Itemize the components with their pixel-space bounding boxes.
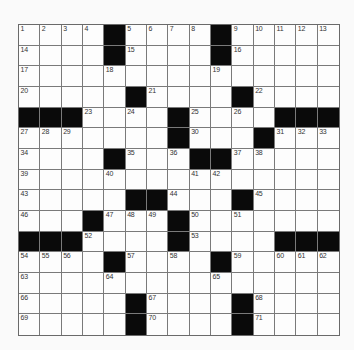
- grid-cell[interactable]: [296, 211, 317, 232]
- grid-cell[interactable]: [62, 211, 83, 232]
- grid-cell[interactable]: [40, 87, 61, 108]
- grid-cell[interactable]: 42: [211, 170, 232, 191]
- grid-cell[interactable]: [318, 149, 339, 170]
- grid-cell[interactable]: [147, 170, 168, 191]
- grid-cell[interactable]: [147, 149, 168, 170]
- grid-cell[interactable]: 19: [211, 66, 232, 87]
- grid-cell[interactable]: [40, 190, 61, 211]
- grid-cell[interactable]: 67: [147, 294, 168, 315]
- grid-cell[interactable]: [254, 232, 275, 253]
- grid-cell[interactable]: 69: [19, 314, 40, 335]
- grid-cell[interactable]: [211, 211, 232, 232]
- grid-cell[interactable]: [126, 128, 147, 149]
- grid-cell[interactable]: 22: [254, 87, 275, 108]
- grid-cell[interactable]: [62, 46, 83, 67]
- grid-cell[interactable]: 48: [126, 211, 147, 232]
- grid-cell[interactable]: [147, 128, 168, 149]
- grid-cell[interactable]: [40, 273, 61, 294]
- grid-cell[interactable]: [190, 294, 211, 315]
- grid-cell[interactable]: 47: [104, 211, 125, 232]
- grid-cell[interactable]: [254, 170, 275, 191]
- grid-cell[interactable]: [83, 170, 104, 191]
- grid-cell[interactable]: [168, 170, 189, 191]
- grid-cell[interactable]: [62, 66, 83, 87]
- grid-cell[interactable]: 59: [232, 252, 253, 273]
- grid-cell[interactable]: [275, 149, 296, 170]
- grid-cell[interactable]: 1: [19, 25, 40, 46]
- grid-cell[interactable]: 36: [168, 149, 189, 170]
- grid-cell[interactable]: [254, 108, 275, 129]
- grid-cell[interactable]: [296, 190, 317, 211]
- grid-cell[interactable]: [40, 294, 61, 315]
- grid-cell[interactable]: 11: [275, 25, 296, 46]
- grid-cell[interactable]: [296, 314, 317, 335]
- grid-cell[interactable]: [83, 190, 104, 211]
- grid-cell[interactable]: [275, 87, 296, 108]
- grid-cell[interactable]: 61: [296, 252, 317, 273]
- grid-cell[interactable]: [83, 314, 104, 335]
- grid-cell[interactable]: 71: [254, 314, 275, 335]
- grid-cell[interactable]: [275, 294, 296, 315]
- grid-cell[interactable]: [232, 273, 253, 294]
- grid-cell[interactable]: 35: [126, 149, 147, 170]
- grid-cell[interactable]: [126, 232, 147, 253]
- grid-cell[interactable]: [211, 108, 232, 129]
- grid-cell[interactable]: 16: [232, 46, 253, 67]
- grid-cell[interactable]: 4: [83, 25, 104, 46]
- grid-cell[interactable]: [168, 314, 189, 335]
- grid-cell[interactable]: [254, 46, 275, 67]
- grid-cell[interactable]: 66: [19, 294, 40, 315]
- grid-cell[interactable]: 21: [147, 87, 168, 108]
- grid-cell[interactable]: 33: [318, 128, 339, 149]
- grid-cell[interactable]: 43: [19, 190, 40, 211]
- grid-cell[interactable]: 44: [168, 190, 189, 211]
- grid-cell[interactable]: 58: [168, 252, 189, 273]
- grid-cell[interactable]: [62, 190, 83, 211]
- grid-cell[interactable]: [211, 190, 232, 211]
- grid-cell[interactable]: [104, 314, 125, 335]
- grid-cell[interactable]: 46: [19, 211, 40, 232]
- grid-cell[interactable]: [296, 87, 317, 108]
- grid-cell[interactable]: [147, 232, 168, 253]
- grid-cell[interactable]: [168, 273, 189, 294]
- grid-cell[interactable]: [190, 46, 211, 67]
- grid-cell[interactable]: [62, 149, 83, 170]
- grid-cell[interactable]: [318, 211, 339, 232]
- grid-cell[interactable]: 13: [318, 25, 339, 46]
- grid-cell[interactable]: [40, 46, 61, 67]
- grid-cell[interactable]: 24: [126, 108, 147, 129]
- grid-cell[interactable]: [232, 232, 253, 253]
- grid-cell[interactable]: [40, 314, 61, 335]
- grid-cell[interactable]: 18: [104, 66, 125, 87]
- grid-cell[interactable]: [147, 66, 168, 87]
- grid-cell[interactable]: 25: [190, 108, 211, 129]
- grid-cell[interactable]: 68: [254, 294, 275, 315]
- grid-cell[interactable]: [147, 46, 168, 67]
- grid-cell[interactable]: [83, 252, 104, 273]
- grid-cell[interactable]: 50: [190, 211, 211, 232]
- grid-cell[interactable]: [126, 66, 147, 87]
- grid-cell[interactable]: [168, 46, 189, 67]
- grid-cell[interactable]: [126, 273, 147, 294]
- grid-cell[interactable]: [40, 170, 61, 191]
- grid-cell[interactable]: [62, 294, 83, 315]
- grid-cell[interactable]: 60: [275, 252, 296, 273]
- grid-cell[interactable]: [275, 211, 296, 232]
- grid-cell[interactable]: [83, 149, 104, 170]
- grid-cell[interactable]: 17: [19, 66, 40, 87]
- grid-cell[interactable]: [211, 128, 232, 149]
- grid-cell[interactable]: [254, 211, 275, 232]
- grid-cell[interactable]: [62, 314, 83, 335]
- grid-cell[interactable]: [318, 190, 339, 211]
- grid-cell[interactable]: 28: [40, 128, 61, 149]
- grid-cell[interactable]: 29: [62, 128, 83, 149]
- grid-cell[interactable]: [190, 87, 211, 108]
- grid-cell[interactable]: [211, 87, 232, 108]
- grid-cell[interactable]: [147, 273, 168, 294]
- grid-cell[interactable]: [296, 66, 317, 87]
- grid-cell[interactable]: [318, 294, 339, 315]
- grid-cell[interactable]: 2: [40, 25, 61, 46]
- grid-cell[interactable]: 49: [147, 211, 168, 232]
- grid-cell[interactable]: [104, 87, 125, 108]
- grid-cell[interactable]: 63: [19, 273, 40, 294]
